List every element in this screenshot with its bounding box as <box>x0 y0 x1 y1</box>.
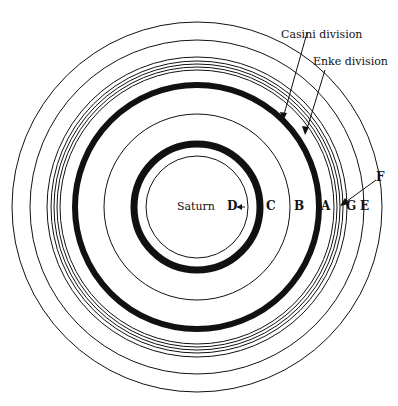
label-enke-division: Enke division <box>313 55 388 68</box>
casini-pointer-line <box>283 33 307 118</box>
label-casini-division: Casini division <box>281 28 362 41</box>
label-ring-c: C <box>266 199 276 213</box>
d-arrowhead-icon <box>237 204 242 210</box>
enke-pointer-line <box>306 70 325 132</box>
enke-arrowhead-icon <box>302 126 309 135</box>
label-ring-a: A <box>321 199 330 213</box>
label-ring-d: D <box>227 199 237 213</box>
label-ring-b: B <box>294 199 304 213</box>
label-saturn: Saturn <box>177 200 215 213</box>
label-ring-e: E <box>360 199 369 213</box>
label-ring-g: G <box>346 199 356 213</box>
label-ring-f: F <box>376 170 385 184</box>
